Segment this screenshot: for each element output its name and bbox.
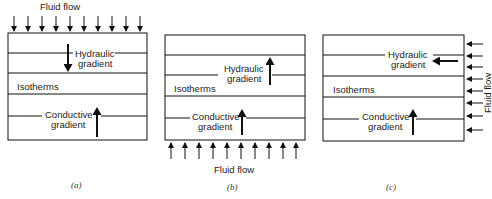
caption-b: (b) bbox=[227, 182, 238, 192]
panel-c: Hydraulic gradient Isotherms Conductive … bbox=[323, 35, 492, 192]
fluid-flow-arrows-down-a bbox=[14, 16, 140, 31]
conductive-label-c-2: gradient bbox=[368, 121, 403, 132]
caption-a: (a) bbox=[71, 180, 82, 190]
isotherms-label-b: Isotherms bbox=[174, 83, 216, 94]
fluid-flow-label-c: Fluid flow bbox=[482, 73, 492, 113]
hydraulic-label-c-2: gradient bbox=[391, 59, 426, 70]
hydraulic-label-b-2: gradient bbox=[227, 73, 262, 84]
fluid-flow-label-b: Fluid flow bbox=[214, 164, 254, 175]
fluid-flow-label-a: Fluid flow bbox=[40, 1, 80, 12]
isotherms-label-c: Isotherms bbox=[333, 84, 375, 95]
caption-c: (c) bbox=[386, 182, 396, 192]
conductive-label-b-2: gradient bbox=[198, 121, 233, 132]
panel-b: Hydraulic gradient Isotherms Conductive … bbox=[165, 35, 305, 192]
fluid-flow-arrows-up-b bbox=[171, 143, 296, 159]
fluid-flow-diagram: Fluid flow Hydraulic gradient Isotherms … bbox=[0, 0, 492, 199]
hydraulic-label-a-2: gradient bbox=[78, 58, 113, 69]
conductive-label-a-2: gradient bbox=[51, 119, 86, 130]
panel-a: Fluid flow Hydraulic gradient Isotherms … bbox=[8, 1, 147, 190]
isotherms-label-a: Isotherms bbox=[17, 81, 59, 92]
fluid-flow-arrows-left-c bbox=[467, 44, 483, 130]
